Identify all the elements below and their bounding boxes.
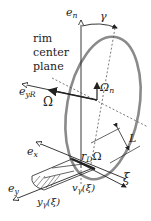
label-xi: ξ (123, 172, 130, 184)
label-e-n: en (66, 7, 77, 20)
label-v-gamma: vγ(ξ) (72, 183, 95, 195)
omega-arrow (49, 90, 97, 100)
label-y-gamma: yγ(ξ) (37, 197, 60, 209)
label-rD-omega: rDΩ (81, 151, 102, 164)
label-center: center (33, 47, 69, 58)
label-e-yR: eyR (19, 86, 36, 99)
L-dimension (117, 127, 129, 150)
label-rim: rim (33, 33, 52, 44)
gamma-arc (82, 24, 117, 28)
label-gamma: γ (100, 11, 107, 22)
label-omega-n: Ωn (100, 82, 114, 95)
label-e-y: ey (8, 183, 19, 196)
wheel-kinematics-diagram: en γ rim center plane Ωn eyR Ω L ex rDΩ … (0, 0, 151, 221)
label-plane: plane (33, 61, 64, 72)
label-L: L (129, 133, 136, 144)
label-omega: Ω (43, 96, 53, 108)
label-e-x: ex (27, 146, 38, 159)
rim-ellipse (55, 31, 151, 185)
